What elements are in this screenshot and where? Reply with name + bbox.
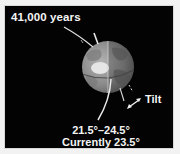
arc-tick	[81, 40, 83, 43]
tilt-dashed-line	[129, 85, 133, 92]
ice-cap	[91, 62, 109, 74]
tilt-double-arrow-icon	[127, 98, 141, 109]
tilt-label: Tilt	[145, 94, 161, 105]
rotation-axis-top	[94, 33, 98, 44]
period-label: 41,000 years	[11, 12, 81, 24]
tilt-range-label: 21.5°–24.5°	[0, 125, 180, 136]
current-tilt-label: Currently 23.5°	[0, 137, 180, 148]
precession-arc-top	[64, 27, 93, 47]
tilt-reference-line	[120, 88, 124, 101]
